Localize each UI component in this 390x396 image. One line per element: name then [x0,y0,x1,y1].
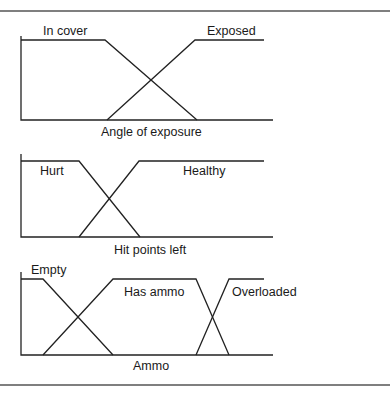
empty-curve [21,279,113,355]
chart-angle-of-exposure [21,36,273,120]
axis-label-angle: Angle of exposure [101,126,202,139]
label-hurt: Hurt [40,165,64,178]
axes [21,36,273,120]
label-healthy: Healthy [183,165,225,178]
hurt-curve [21,161,140,237]
axis-label-ammo: Ammo [133,360,169,373]
label-empty: Empty [31,264,66,277]
label-exposed: Exposed [207,25,256,38]
healthy-curve [79,161,264,237]
label-overloaded: Overloaded [232,286,297,299]
exposed-curve [107,40,264,120]
label-has-ammo: Has ammo [124,286,184,299]
in-cover-curve [21,40,197,120]
label-in-cover: In cover [43,25,87,38]
axis-label-hit-points: Hit points left [114,244,186,257]
fuzzy-sets-diagram [0,0,390,396]
